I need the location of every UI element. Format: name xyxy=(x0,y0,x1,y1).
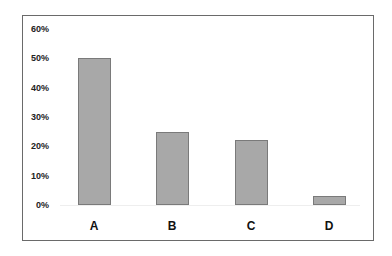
y-tick-label: 20% xyxy=(31,141,59,151)
y-tick-label: 30% xyxy=(31,112,59,122)
x-tick-label: D xyxy=(309,219,349,233)
y-tick-label: 60% xyxy=(31,24,59,34)
y-tick-label: 40% xyxy=(31,83,59,93)
x-tick-label: C xyxy=(231,219,271,233)
x-tick-label: B xyxy=(152,219,192,233)
bar-d xyxy=(313,196,346,205)
bar-a xyxy=(78,58,111,205)
bar-c xyxy=(235,140,268,205)
y-tick-label: 50% xyxy=(31,53,59,63)
y-tick-label: 10% xyxy=(31,171,59,181)
chart-frame xyxy=(22,15,374,241)
x-tick-label: A xyxy=(74,219,114,233)
x-axis-baseline xyxy=(60,205,360,206)
bar-b xyxy=(156,132,189,205)
